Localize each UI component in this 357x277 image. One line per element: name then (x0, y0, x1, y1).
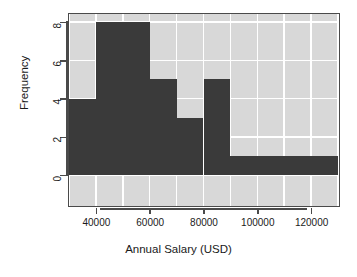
x-axis-tick-label: 60000 (136, 217, 164, 228)
y-axis-line (66, 21, 68, 176)
x-axis-tick (96, 208, 98, 214)
histogram-bar (150, 79, 177, 175)
y-axis-tick-label: 4 (53, 99, 63, 105)
histogram-bar (311, 156, 338, 175)
grid-line-vertical (310, 14, 312, 206)
grid-line-vertical (337, 14, 339, 206)
x-axis-tick (311, 208, 313, 214)
grid-line-vertical (283, 14, 285, 206)
y-axis-tick-label: 0 (53, 176, 63, 182)
histogram-bar (204, 79, 231, 175)
x-axis-tick-label: 100000 (241, 217, 274, 228)
x-axis-tick (257, 208, 259, 214)
y-axis-tick-label: 8 (53, 23, 63, 29)
x-axis-title: Annual Salary (USD) (0, 243, 357, 255)
x-axis-tick-label: 120000 (295, 217, 328, 228)
histogram-bar (69, 99, 96, 176)
histogram-bar (123, 22, 150, 175)
y-axis-tick-label: 2 (53, 137, 63, 143)
x-axis-tick (149, 208, 151, 214)
histogram-bar (96, 22, 123, 175)
grid-line-vertical (257, 14, 259, 206)
histogram-bar (284, 156, 311, 175)
histogram-bar (177, 118, 204, 175)
x-axis-tick (203, 208, 205, 214)
histogram-figure: 02468 400006000080000100000120000 Freque… (0, 0, 357, 277)
y-axis-title: Frequency (18, 56, 30, 110)
histogram-bar (230, 156, 257, 175)
x-axis-tick-label: 40000 (82, 217, 110, 228)
histogram-bar (257, 156, 284, 175)
y-axis-tick-label: 6 (53, 61, 63, 67)
x-axis-tick-label: 80000 (190, 217, 218, 228)
plot-panel (68, 13, 340, 207)
